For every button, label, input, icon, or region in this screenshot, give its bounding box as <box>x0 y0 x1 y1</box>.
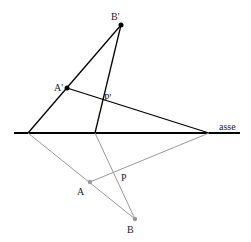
line-b-mid <box>95 133 135 219</box>
line-b-prime-left <box>28 25 121 133</box>
point-a-prime <box>65 86 70 91</box>
point-b <box>133 217 137 221</box>
label-a-prime: A' <box>54 82 63 93</box>
label-axis: asse <box>219 121 236 132</box>
point-a <box>88 180 92 184</box>
line-b-prime-mid <box>95 25 121 133</box>
label-p-prime: P' <box>104 92 112 103</box>
label-b-prime: B' <box>111 11 120 22</box>
label-a: A <box>77 186 85 197</box>
homology-diagram: B' A' P' asse P A B <box>0 0 251 242</box>
line-a-prime-right <box>67 88 209 133</box>
label-b: B <box>127 224 134 235</box>
line-b-left <box>28 133 135 219</box>
label-p: P <box>121 172 127 183</box>
line-a-right <box>90 133 209 182</box>
point-b-prime <box>119 23 124 28</box>
